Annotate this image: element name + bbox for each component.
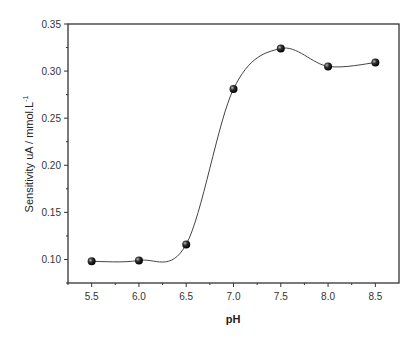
x-axis-ticks: 5.56.06.57.07.58.08.5 (68, 283, 383, 302)
data-point (230, 85, 238, 93)
data-point (88, 257, 96, 265)
y-tick-label: 0.35 (42, 19, 62, 30)
x-axis-title: pH (226, 313, 241, 325)
data-points (88, 44, 380, 265)
y-axis-ticks: 0.100.150.200.250.300.35 (42, 19, 68, 284)
data-point (135, 256, 143, 264)
chart: 0.100.150.200.250.300.35 5.56.06.57.07.5… (0, 0, 419, 338)
x-tick-label: 7.0 (227, 291, 241, 302)
data-point (277, 44, 285, 52)
x-tick-label: 7.5 (274, 291, 288, 302)
x-tick-label: 6.0 (132, 291, 146, 302)
y-tick-label: 0.10 (42, 254, 62, 265)
y-tick-label: 0.30 (42, 66, 62, 77)
x-tick-label: 8.5 (368, 291, 382, 302)
data-point (371, 59, 379, 67)
data-point (324, 62, 332, 70)
data-curve (92, 48, 376, 262)
x-tick-label: 6.5 (179, 291, 193, 302)
y-tick-label: 0.20 (42, 160, 62, 171)
data-point (182, 240, 190, 248)
x-tick-label: 5.5 (85, 291, 99, 302)
x-tick-label: 8.0 (321, 291, 335, 302)
plot-frame (68, 24, 399, 283)
y-tick-label: 0.25 (42, 113, 62, 124)
y-axis-title: Sensitivity uA / mmol.L-1 (22, 95, 35, 212)
y-tick-label: 0.15 (42, 207, 62, 218)
